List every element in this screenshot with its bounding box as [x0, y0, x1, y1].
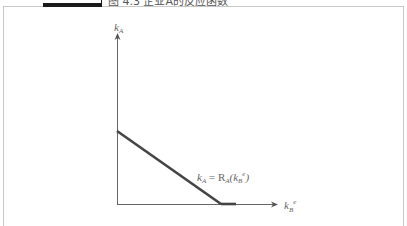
- x-axis-label: kBe: [284, 198, 296, 214]
- reaction-function-chart: kA kBe kA = RA(kBe): [0, 0, 407, 226]
- reaction-curve: [117, 131, 221, 204]
- y-axis-label: kA: [114, 21, 124, 35]
- curve-label: kA = RA(kBe): [197, 170, 249, 185]
